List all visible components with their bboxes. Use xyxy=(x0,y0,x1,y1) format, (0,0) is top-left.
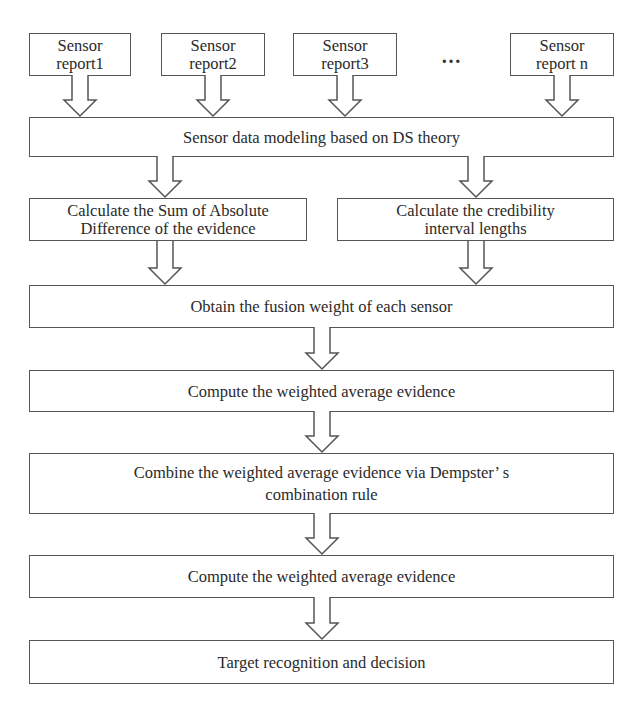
step-label: Compute the weighted average evidence xyxy=(188,382,456,401)
weighted-average-box-1: Compute the weighted average evidence xyxy=(29,370,614,412)
down-arrow-icon xyxy=(305,327,339,370)
sensor-label: Sensor xyxy=(58,37,103,55)
sum-absolute-difference-box: Calculate the Sum of Absolute Difference… xyxy=(29,198,307,241)
down-arrow-icon xyxy=(196,75,230,117)
down-arrow-icon xyxy=(148,241,182,285)
down-arrow-icon xyxy=(305,513,339,555)
step-label: Difference of the evidence xyxy=(80,220,255,238)
step-label: Compute the weighted average evidence xyxy=(188,567,456,586)
sensor-report-label: report1 xyxy=(56,55,104,73)
down-arrow-icon xyxy=(148,156,182,198)
dempster-combination-box: Combine the weighted average evidence vi… xyxy=(29,453,614,514)
credibility-interval-box: Calculate the credibility interval lengt… xyxy=(337,198,614,241)
sensor-report-n-box: Sensor report n xyxy=(510,33,614,76)
sensor-label: Sensor xyxy=(323,37,368,55)
ds-modeling-box: Sensor data modeling based on DS theory xyxy=(29,117,614,157)
sensor-report-label: report2 xyxy=(189,55,237,73)
step-label: interval lengths xyxy=(424,220,526,238)
fusion-weight-box: Obtain the fusion weight of each sensor xyxy=(29,285,614,328)
down-arrow-icon xyxy=(305,411,339,453)
weighted-average-box-2: Compute the weighted average evidence xyxy=(29,555,614,598)
sensor-label: Sensor xyxy=(540,37,585,55)
down-arrow-icon xyxy=(545,75,579,117)
sensor-report-label: report n xyxy=(536,55,588,73)
step-label: Obtain the fusion weight of each sensor xyxy=(190,297,452,316)
step-label: Target recognition and decision xyxy=(218,653,426,672)
step-label: Calculate the credibility xyxy=(396,202,555,220)
target-decision-box: Target recognition and decision xyxy=(29,640,614,684)
step-label: Combine the weighted average evidence vi… xyxy=(134,462,510,484)
sensor-report-2-box: Sensor report2 xyxy=(161,33,265,76)
ellipsis: … xyxy=(441,45,462,68)
sensor-report-1-box: Sensor report1 xyxy=(29,33,131,76)
down-arrow-icon xyxy=(63,75,97,117)
down-arrow-icon xyxy=(305,597,339,640)
down-arrow-icon xyxy=(459,241,493,285)
sensor-report-3-box: Sensor report3 xyxy=(293,33,397,76)
step-label: Calculate the Sum of Absolute xyxy=(67,202,269,220)
sensor-label: Sensor xyxy=(191,37,236,55)
sensor-report-label: report3 xyxy=(321,55,369,73)
step-label: Sensor data modeling based on DS theory xyxy=(183,128,460,147)
step-label: combination rule xyxy=(265,484,377,506)
down-arrow-icon xyxy=(459,156,493,198)
down-arrow-icon xyxy=(328,75,362,117)
